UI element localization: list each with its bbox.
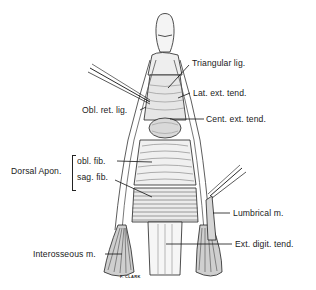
distal-phalanx <box>156 14 174 53</box>
label-cent-ext-tend: Cent. ext. tend. <box>206 114 266 124</box>
label-obl-fib: obl. fib. <box>77 156 106 166</box>
label-dorsal-apon: Dorsal Apon. <box>11 166 61 176</box>
label-lumbrical-m: Lumbrical m. <box>233 208 283 218</box>
label-ext-digit-tend: Ext. digit. tend. <box>235 239 294 249</box>
label-triangular-lig: Triangular lig. <box>192 58 245 68</box>
label-interosseous-m: Interosseous m. <box>33 249 96 259</box>
bracket-dorsal-apon <box>72 155 76 191</box>
label-lat-ext-tend: Lat. ext. tend. <box>193 88 247 98</box>
lumbrical-muscle-shape <box>206 196 216 240</box>
artist-signature: F. CLARK <box>120 274 141 279</box>
label-obl-ret-lig: Obl. ret. lig. <box>82 105 127 115</box>
label-sag-fib: sag. fib. <box>77 172 108 182</box>
